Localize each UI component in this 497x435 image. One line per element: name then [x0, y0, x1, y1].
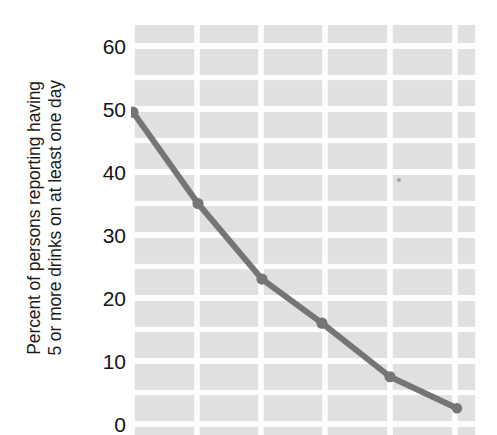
y-axis-title-line-1: Percent of persons reporting having [26, 81, 44, 355]
data-point-marker [316, 318, 327, 329]
y-axis-tick-50: 50 [103, 99, 126, 120]
y-axis-tick-labels: 6050403020100 [88, 0, 130, 435]
data-point-marker [384, 371, 395, 382]
y-axis-title: Percent of persons reporting having 5 or… [0, 0, 88, 435]
y-axis-title-line-2: 5 or more drinks on at least one day [47, 80, 65, 356]
line-series [131, 25, 480, 435]
y-axis-tick-0: 0 [114, 414, 126, 435]
y-axis-tick-30: 30 [103, 225, 126, 246]
series-line [133, 112, 457, 408]
y-axis-tick-20: 20 [103, 288, 126, 309]
y-axis-tick-10: 10 [103, 351, 126, 372]
data-point-marker [256, 274, 267, 285]
scan-speckle-artifact [397, 178, 401, 182]
chart-screenshot: Percent of persons reporting having 5 or… [0, 0, 497, 435]
y-axis-tick-60: 60 [103, 36, 126, 57]
data-point-marker [452, 403, 462, 413]
y-axis-tick-40: 40 [103, 162, 126, 183]
data-point-marker [192, 198, 203, 209]
plot-area [131, 25, 480, 435]
